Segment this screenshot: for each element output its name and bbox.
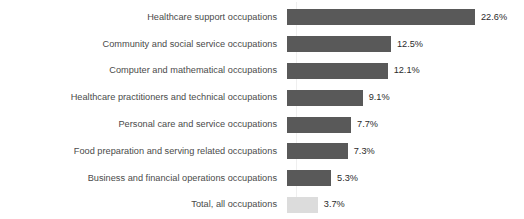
bar[interactable] — [287, 197, 318, 213]
bar-track: 7.3% — [287, 138, 524, 165]
bar-track: 12.5% — [287, 31, 524, 58]
bar-track: 12.1% — [287, 58, 524, 85]
category-label: Community and social service occupations — [0, 39, 287, 50]
value-label: 12.1% — [394, 65, 420, 76]
category-label: Computer and mathematical occupations — [0, 65, 287, 76]
chart-row: Food preparation and serving related occ… — [0, 138, 524, 165]
value-label: 7.3% — [354, 146, 375, 157]
bar[interactable] — [287, 9, 475, 25]
bar-track: 3.7% — [287, 192, 524, 219]
bar[interactable] — [287, 63, 388, 79]
category-label: Total, all occupations — [0, 199, 287, 210]
chart-row: Community and social service occupations… — [0, 31, 524, 58]
category-label: Healthcare practitioners and technical o… — [0, 92, 287, 103]
value-label: 22.6% — [481, 12, 507, 23]
chart-row: Business and financial operations occupa… — [0, 165, 524, 192]
chart-row: Total, all occupations 3.7% — [0, 192, 524, 219]
category-label: Healthcare support occupations — [0, 12, 287, 23]
bar[interactable] — [287, 117, 351, 133]
category-label: Business and financial operations occupa… — [0, 173, 287, 184]
chart-row: Computer and mathematical occupations 12… — [0, 58, 524, 85]
value-label: 5.3% — [337, 173, 358, 184]
bar-track: 22.6% — [287, 4, 524, 31]
category-label: Personal care and service occupations — [0, 119, 287, 130]
bar[interactable] — [287, 90, 363, 106]
bar-track: 9.1% — [287, 84, 524, 111]
chart-row: Personal care and service occupations 7.… — [0, 111, 524, 138]
chart-rows: Healthcare support occupations 22.6% Com… — [0, 4, 524, 218]
value-label: 3.7% — [324, 199, 345, 210]
chart-row: Healthcare practitioners and technical o… — [0, 84, 524, 111]
bar-chart: Healthcare support occupations 22.6% Com… — [0, 0, 524, 219]
value-label: 7.7% — [357, 119, 378, 130]
bar[interactable] — [287, 170, 331, 186]
bar[interactable] — [287, 36, 391, 52]
bar-track: 7.7% — [287, 111, 524, 138]
bar-track: 5.3% — [287, 165, 524, 192]
bar[interactable] — [287, 143, 348, 159]
category-label: Food preparation and serving related occ… — [0, 146, 287, 157]
value-label: 12.5% — [397, 39, 423, 50]
value-label: 9.1% — [369, 92, 390, 103]
chart-row: Healthcare support occupations 22.6% — [0, 4, 524, 31]
